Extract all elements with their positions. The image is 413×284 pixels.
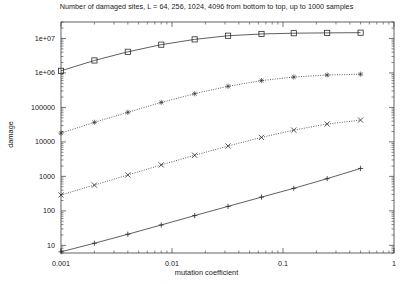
series-1 <box>58 72 363 136</box>
y-tick-label: 100 <box>3 206 55 215</box>
series-line <box>61 120 361 195</box>
plot-frame <box>61 22 394 253</box>
y-tick-label: 1e+06 <box>3 68 55 77</box>
plot-area <box>0 0 413 284</box>
series-2 <box>58 117 363 197</box>
y-tick-label: 100000 <box>3 103 55 112</box>
y-tick-label: 1e+07 <box>3 34 55 43</box>
series-line <box>61 168 361 251</box>
series-3 <box>58 166 363 255</box>
x-tick-label: 0.001 <box>36 259 86 268</box>
series-line <box>61 74 361 133</box>
series-line <box>61 33 361 71</box>
x-tick-label: 0.01 <box>147 259 197 268</box>
chart-container: Number of damaged sites, L = 64, 256, 10… <box>0 0 413 284</box>
y-tick-label: 10 <box>3 241 55 250</box>
x-tick-label: 1 <box>369 259 413 268</box>
series-0 <box>58 30 363 73</box>
y-tick-label: 10000 <box>3 137 55 146</box>
x-tick-label: 0.1 <box>258 259 308 268</box>
y-tick-label: 1000 <box>3 172 55 181</box>
